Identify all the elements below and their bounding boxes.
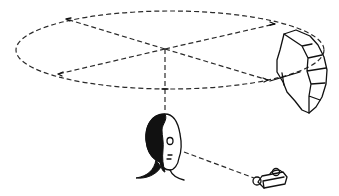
orbit-ellipse <box>16 11 324 89</box>
lighting-diagram <box>0 0 339 196</box>
head-icon <box>136 114 184 180</box>
camera-sightline <box>184 152 254 178</box>
orbit-radials <box>58 18 275 82</box>
camera-icon <box>253 169 287 189</box>
